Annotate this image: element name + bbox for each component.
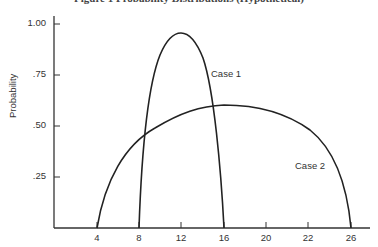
y-ticks [54, 24, 60, 177]
x-tick-label-8: 8 [129, 232, 149, 243]
x-tick-label-16: 16 [214, 232, 234, 243]
y-tick-label-1-00: 1.00 [16, 17, 46, 28]
x-tick-label-20: 20 [256, 232, 276, 243]
y-tick-label-0-75: .75 [16, 68, 46, 79]
y-tick-label-0-50: .50 [16, 119, 46, 130]
x-tick-label-12: 12 [171, 232, 191, 243]
x-tick-label-4: 4 [87, 232, 107, 243]
y-tick-label-0-25: .25 [16, 170, 46, 181]
probability-chart [0, 0, 378, 247]
y-axis-title: Probability [7, 74, 18, 118]
case1-label: Case 1 [211, 68, 241, 79]
x-tick-label-22: 22 [298, 232, 318, 243]
case2-label: Case 2 [295, 160, 325, 171]
x-tick-label-26: 26 [341, 232, 361, 243]
